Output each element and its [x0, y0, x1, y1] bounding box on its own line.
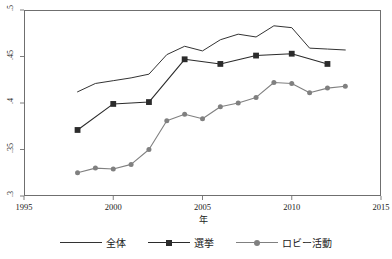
chart-container: .3.35.4.45.5 19952000200520102015 年 全体選挙… — [0, 0, 392, 259]
x-tick-label: 2010 — [283, 203, 300, 212]
legend-label: 選挙 — [194, 238, 214, 249]
y-tick-label: .35 — [4, 144, 18, 152]
legend-swatch-square-icon — [148, 238, 190, 248]
legend-item-1[interactable]: 全体 — [60, 238, 126, 249]
y-tick-label: .5 — [4, 4, 18, 12]
axis-ticks — [20, 10, 381, 200]
legend-swatch-none-icon — [60, 238, 102, 248]
chart-series-layer — [0, 0, 392, 259]
x-axis-title: 年 — [199, 215, 208, 225]
y-tick-label: .45 — [4, 51, 18, 59]
data-series-lines — [78, 26, 346, 173]
y-tick-label: .4 — [4, 97, 18, 105]
x-tick-label: 2005 — [194, 203, 211, 212]
legend-item-2[interactable]: 選挙 — [148, 238, 214, 249]
legend-swatch-circle-icon — [236, 238, 278, 248]
legend-label: ロビー活動 — [282, 238, 332, 249]
chart-legend: 全体選挙ロビー活動 — [0, 232, 392, 254]
x-tick-label: 2000 — [105, 203, 122, 212]
legend-label: 全体 — [106, 238, 126, 249]
x-tick-label: 1995 — [16, 203, 33, 212]
x-tick-label: 2015 — [373, 203, 390, 212]
legend-item-3[interactable]: ロビー活動 — [236, 238, 332, 249]
y-tick-label: .3 — [4, 190, 18, 198]
